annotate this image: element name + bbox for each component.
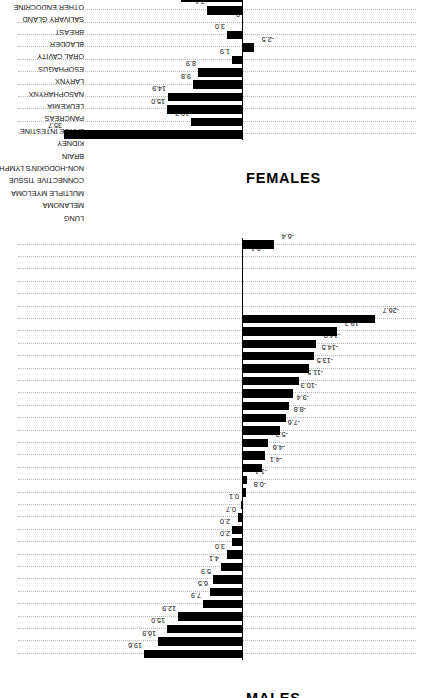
grid-line — [18, 59, 416, 60]
grid-line — [18, 566, 416, 567]
site-label: KIDNEY — [57, 139, 84, 148]
bar-value-label: 5.9 — [201, 567, 211, 576]
bar-value-label: 15.0 — [151, 616, 165, 625]
bar — [213, 575, 242, 584]
bar — [242, 340, 316, 349]
grid-line — [18, 343, 416, 344]
bar-value-label: -4.1 — [270, 455, 282, 464]
bar-value-label: 3.0 — [215, 22, 225, 31]
bar-value-label: -13.5 — [317, 356, 333, 365]
bar-value-label: 3.0 — [215, 542, 225, 551]
bar-value-label: 19.6 — [129, 641, 143, 650]
grid-line — [18, 281, 416, 282]
bar — [168, 93, 242, 102]
figure-canvas: 19.616.915.012.97.96.55.94.13.02.02.00.7… — [0, 0, 434, 698]
grid-line — [18, 516, 416, 517]
bar — [227, 550, 242, 559]
bar — [242, 402, 289, 411]
grid-line — [18, 256, 416, 257]
site-label: LUNG — [64, 214, 84, 223]
grid-line — [18, 430, 416, 431]
bar-value-label: -0.8 — [254, 480, 266, 489]
bar-value-label: 7.9 — [191, 591, 201, 600]
bar-value-label: 0.1 — [230, 492, 240, 501]
chart-page: 19.616.915.012.97.96.55.94.13.02.02.00.7… — [0, 0, 434, 698]
bar — [242, 389, 293, 398]
bar-value-label: -11.5 — [307, 368, 323, 377]
site-label: MELANOMA — [43, 201, 84, 210]
bar-value-label: 35.7 — [48, 121, 62, 130]
bar-value-label: -26.7 — [383, 306, 399, 315]
bar — [193, 80, 242, 89]
grid-line — [18, 34, 416, 35]
grid-line — [18, 46, 416, 47]
grid-line — [18, 492, 416, 493]
grid-line — [18, 504, 416, 505]
bar — [242, 327, 338, 336]
bar — [158, 637, 242, 646]
site-label: CONNECTIVE TISSUE — [9, 176, 84, 185]
grid-line — [18, 442, 416, 443]
bar-value-label: -4.6 — [273, 443, 285, 452]
bar — [242, 426, 280, 435]
site-label: BRAIN — [62, 152, 84, 161]
bar-value-label: 12.9 — [162, 604, 176, 613]
males-panel-title: MALES — [246, 690, 301, 698]
bar — [242, 240, 274, 249]
bar-value-label: -8.8 — [293, 405, 305, 414]
bar — [198, 68, 242, 77]
bar — [242, 364, 309, 373]
grid-line — [18, 368, 416, 369]
bar — [242, 315, 375, 324]
bar — [232, 538, 242, 547]
bar — [242, 377, 299, 386]
bar — [207, 6, 242, 15]
bar — [232, 56, 241, 65]
grid-line — [18, 244, 416, 245]
bar — [242, 352, 314, 361]
bar — [242, 43, 254, 52]
grid-line — [18, 380, 416, 381]
grid-line — [18, 405, 416, 406]
bar-value-label: 16.9 — [142, 629, 156, 638]
bar-value-label: 1.9 — [221, 47, 231, 56]
site-label-column: LUNGMELANOMAMULTIPLE MYELOMACONNECTIVE T… — [0, 146, 434, 232]
grid-line — [18, 330, 416, 331]
bar-value-label: -6.4 — [282, 232, 294, 241]
bar — [167, 105, 242, 114]
grid-line — [18, 306, 416, 307]
bar-value-label: 2.0 — [220, 529, 230, 538]
bar — [203, 600, 242, 609]
bar-value-label: -2.5 — [262, 35, 274, 44]
grid-line — [18, 467, 416, 468]
grid-line — [18, 479, 416, 480]
bar-value-label: -7.6 — [287, 418, 299, 427]
bar — [191, 118, 242, 127]
bar — [221, 563, 241, 572]
zero-axis-line — [242, 0, 243, 140]
bar-value-label: -14.5 — [322, 343, 338, 352]
site-label: NON-HODGKIN'S LYMPHOMA — [0, 164, 84, 173]
bar — [144, 650, 242, 659]
bar — [167, 625, 242, 634]
grid-line — [18, 454, 416, 455]
bar — [181, 0, 242, 2]
bar — [227, 31, 242, 40]
females-panel: 35.710.315.014.99.88.91.9-2.53.007.112.3… — [0, 0, 434, 140]
grid-line — [18, 529, 416, 530]
grid-line — [18, 392, 416, 393]
males-panel: 19.616.915.012.97.96.55.94.13.02.02.00.7… — [0, 238, 434, 660]
bar — [242, 451, 265, 460]
bar-value-label: 14.9 — [152, 84, 166, 93]
bar-value-label: 4.1 — [210, 554, 220, 563]
females-panel-title: FEMALES — [246, 170, 321, 186]
bar-value-label: 15.0 — [151, 97, 165, 106]
bar — [210, 588, 242, 597]
bar-value-label: 6.5 — [198, 579, 208, 588]
grid-line — [18, 355, 416, 356]
bar — [232, 526, 242, 535]
bar-value-label: -9.4 — [296, 393, 308, 402]
bar — [64, 130, 242, 139]
bar — [178, 612, 242, 621]
bar-value-label: 0.7 — [227, 505, 237, 514]
